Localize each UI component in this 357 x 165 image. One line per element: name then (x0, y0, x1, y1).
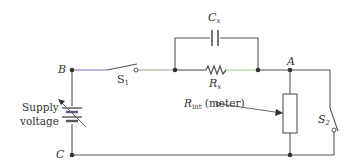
switch-s1-terminal (134, 68, 138, 72)
variable-arrow-line (60, 101, 86, 127)
switch-s2-label-main: S (318, 113, 326, 126)
node-c-label: C (56, 149, 64, 160)
circuit-diagram: B C A S1 Cx Rx Rint (meter) S2 Supply vo… (0, 0, 357, 165)
meter-rint-label: Rint (meter) (184, 98, 245, 111)
switch-s2-label: S2 (318, 114, 330, 127)
wire-cap-right (220, 38, 258, 70)
node-b-label: B (58, 64, 66, 75)
node-left-dot (173, 68, 178, 73)
switch-s1-lever (107, 64, 137, 70)
meter-rint-label-main: R (184, 97, 192, 109)
switch-s2-terminal (332, 128, 336, 132)
capacitor-cx-label-sub: x (216, 17, 220, 25)
resistor-rx-label: Rx (209, 78, 221, 91)
circuit-schematic (0, 0, 357, 165)
supply-voltage-label-line1: Supply (22, 102, 59, 113)
variable-arrow-head (58, 99, 65, 105)
capacitor-cx-label: Cx (208, 12, 220, 25)
switch-s1-label-main: S (117, 73, 125, 86)
node-bottom-dot (288, 153, 293, 158)
supply-voltage-label-line2: voltage (20, 116, 59, 127)
meter-resistor-body (283, 94, 297, 133)
switch-s1-label: S1 (117, 74, 129, 87)
meter-rint-label-suffix: (meter) (201, 97, 244, 109)
switch-s2-label-sub: 2 (326, 119, 330, 127)
node-right-dot (256, 68, 261, 73)
node-b-dot (70, 68, 75, 73)
resistor-rx-zigzag (206, 66, 226, 74)
switch-s1-label-sub: 1 (125, 79, 129, 87)
resistor-rx-label-sub: x (217, 83, 221, 91)
meter-wiper-arrowhead (275, 109, 283, 116)
node-a-label: A (287, 56, 295, 67)
wire-cap-left (175, 38, 210, 70)
node-a-dot (288, 68, 293, 73)
node-c-dot (70, 153, 75, 158)
